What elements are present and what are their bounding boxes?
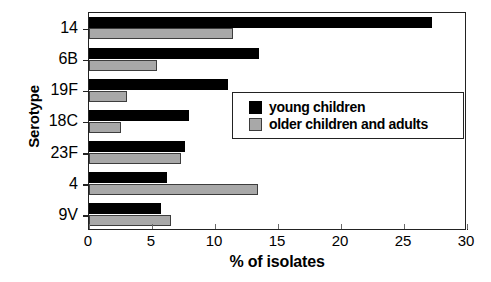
bar [89,48,259,59]
x-axis-tick-label: 20 [332,232,349,249]
bar [89,91,127,102]
y-axis-tick-mark [83,215,89,216]
x-axis-tick-mark-inner [215,224,216,229]
x-axis-tick-label: 10 [206,232,223,249]
x-axis-tick-label: 0 [84,232,92,249]
bar [89,79,228,90]
x-axis-tick-mark-inner [152,224,153,229]
y-axis-tick-label: 19F [50,74,78,105]
y-axis-tick-label: 9V [58,199,78,230]
legend-label-young-children: young children [269,99,365,115]
bar [89,60,157,71]
x-axis-tick-label: 30 [458,232,475,249]
legend-item: young children [249,99,463,115]
bar [89,184,258,195]
y-axis-tick-labels: 146B19F18C23F49V [14,12,82,230]
x-axis-tick-labels: 051015202530 [88,232,466,252]
bar [89,110,189,121]
bar-chart-figure: Serotype 146B19F18C23F49V 051015202530 %… [0,0,491,282]
y-axis-tick-mark [83,91,89,92]
x-axis-tick-label: 25 [395,232,412,249]
bar [89,203,161,214]
chart-legend: young children older children and adults [232,92,464,139]
bar-group [89,169,465,200]
y-axis-tick-mark [83,122,89,123]
bar [89,28,233,39]
legend-label-older-children-and-adults: older children and adults [269,116,428,132]
x-axis-title: % of isolates [88,253,466,271]
bar [89,215,171,226]
y-axis-tick-label: 14 [60,12,78,43]
bar [89,153,181,164]
bar [89,141,185,152]
x-axis-tick-mark-inner [467,224,468,229]
x-axis-tick-mark-inner [278,224,279,229]
bar [89,172,167,183]
bar [89,17,432,28]
x-axis-tick-mark-inner [341,224,342,229]
legend-swatch-young-children [249,101,262,114]
y-axis-tick-label: 23F [50,137,78,168]
y-axis-tick-label: 4 [69,168,78,199]
x-axis-tick-label: 15 [269,232,286,249]
y-axis-tick-mark [83,60,89,61]
legend-item: older children and adults [249,116,463,132]
x-axis-tick-label: 5 [147,232,155,249]
y-axis-tick-mark [83,29,89,30]
bar-group [89,138,465,169]
bar-group [89,44,465,75]
y-axis-tick-mark [83,153,89,154]
y-axis-tick-mark [83,184,89,185]
bar [89,122,121,133]
legend-swatch-older-children-and-adults [249,118,262,131]
y-axis-tick-label: 6B [58,43,78,74]
x-axis-tick-mark-inner [404,224,405,229]
y-axis-tick-label: 18C [49,105,78,136]
bar-group [89,13,465,44]
bar-group [89,200,465,231]
x-axis-tick-mark-inner [89,224,90,229]
